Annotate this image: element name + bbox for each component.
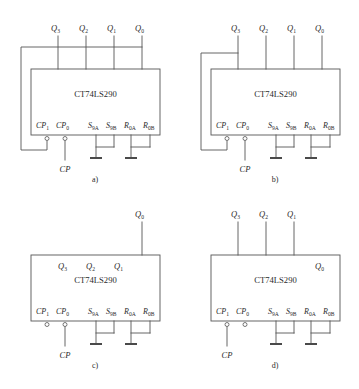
pin-label-s9b-d: S9B (286, 307, 297, 317)
internal-label-q2-c: Q2 (86, 261, 95, 272)
output-label-q1-b: Q1 (287, 23, 296, 34)
output-label-q0-a: Q0 (135, 23, 144, 34)
pin-label-r0b-a: R0B (142, 121, 155, 131)
clock-bubble-cp0-d (243, 323, 247, 327)
pin-label-s9a-d: S9A (268, 307, 279, 317)
pin-label-cp1-c: CP1 (36, 307, 49, 317)
clock-input-label-a: CP (60, 164, 71, 174)
pin-label-r0b-c: R0B (142, 307, 155, 317)
clock-bubble-cp1-c (45, 323, 49, 327)
pin-label-s9b-c: S9B (106, 307, 117, 317)
output-label-q2-d: Q2 (259, 209, 268, 220)
output-label-q1-a: Q1 (107, 23, 116, 34)
output-label-q3-d: Q3 (231, 209, 240, 220)
internal-label-q1-c: Q1 (114, 261, 123, 272)
caption-a: a) (92, 175, 99, 184)
caption-b: b) (272, 175, 279, 184)
pin-label-r0a-d: R0A (303, 307, 316, 317)
pin-label-r0a-b: R0A (303, 121, 316, 131)
chip-label-d: CT74LS290 (254, 275, 297, 285)
pin-label-cp0-b: CP0 (236, 121, 249, 131)
chip-label-a: CT74LS290 (74, 89, 117, 99)
chip-label-c: CT74LS290 (74, 275, 117, 285)
caption-c: c) (92, 361, 99, 370)
output-label-q2-b: Q2 (259, 23, 268, 34)
clock-bubble-cp0-a (63, 137, 67, 141)
clock-bubble-cp0-c (63, 323, 67, 327)
panel-a: CT74LS290 Q3 Q2 Q1 Q0 CP1 CP0 S9A S9B R0… (21, 23, 160, 184)
pin-label-cp0-a: CP0 (56, 121, 69, 131)
output-label-q3-a: Q3 (51, 23, 60, 34)
clock-bubble-cp1-b (225, 137, 229, 141)
pin-label-r0a-c: R0A (123, 307, 136, 317)
pin-label-s9a-b: S9A (268, 121, 279, 131)
pin-label-cp0-c: CP0 (56, 307, 69, 317)
figure-root: CT74LS290 Q3 Q2 Q1 Q0 CP1 CP0 S9A S9B R0… (0, 0, 359, 389)
pin-label-s9b-b: S9B (286, 121, 297, 131)
pin-label-s9b-a: S9B (106, 121, 117, 131)
chip-label-b: CT74LS290 (254, 89, 297, 99)
caption-d: d) (272, 361, 279, 370)
panel-c: CT74LS290 Q0 Q3 Q2 Q1 CP1 CP0 S9A S9B R0… (31, 209, 160, 370)
pin-label-r0a-a: R0A (123, 121, 136, 131)
output-label-q0-c: Q0 (135, 209, 144, 220)
pin-label-s9a-a: S9A (88, 121, 99, 131)
clock-bubble-cp0-b (243, 137, 247, 141)
pin-label-cp0-d: CP0 (236, 307, 249, 317)
pin-label-cp1-d: CP1 (216, 307, 229, 317)
pin-label-r0b-d: R0B (322, 307, 335, 317)
pin-label-cp1-a: CP1 (36, 121, 49, 131)
clock-bubble-cp1-a (45, 137, 49, 141)
clock-input-label-c: CP (60, 350, 71, 360)
output-label-q2-a: Q2 (79, 23, 88, 34)
panel-d: CT74LS290 Q3 Q2 Q1 Q0 CP1 CP0 S9A S9B R0… (211, 209, 340, 370)
internal-label-q3-c: Q3 (58, 261, 67, 272)
pin-label-r0b-b: R0B (322, 121, 335, 131)
panel-b: CT74LS290 Q3 Q2 Q1 Q0 CP1 CP0 S9A S9B R0… (201, 23, 340, 184)
clock-bubble-cp1-d (225, 323, 229, 327)
internal-label-q0-d: Q0 (315, 261, 324, 272)
output-label-q0-b: Q0 (315, 23, 324, 34)
clock-input-label-b: CP (240, 164, 251, 174)
output-label-q3-b: Q3 (231, 23, 240, 34)
pin-label-s9a-c: S9A (88, 307, 99, 317)
clock-input-label-d: CP (222, 350, 233, 360)
output-label-q1-d: Q1 (287, 209, 296, 220)
pin-label-cp1-b: CP1 (216, 121, 229, 131)
